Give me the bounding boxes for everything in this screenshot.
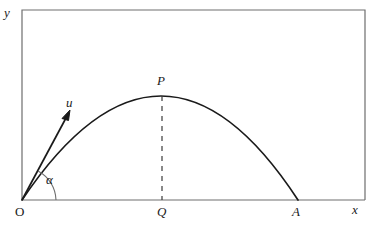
velocity-vector-arrowhead	[62, 110, 70, 121]
point-label-p: P	[157, 74, 165, 87]
diagram-svg	[0, 0, 375, 234]
point-label-origin: O	[15, 205, 24, 218]
angle-label-alpha: α	[46, 173, 53, 186]
axis-label-x: x	[352, 203, 358, 216]
trajectory-curve	[22, 96, 298, 200]
figure-canvas: O Q A P u α x y	[0, 0, 375, 234]
vector-label-u: u	[66, 96, 73, 109]
axis-label-y: y	[4, 6, 10, 19]
plot-frame	[22, 10, 365, 200]
point-label-a: A	[292, 205, 300, 218]
velocity-vector-line	[22, 118, 66, 200]
point-label-q: Q	[157, 205, 166, 218]
